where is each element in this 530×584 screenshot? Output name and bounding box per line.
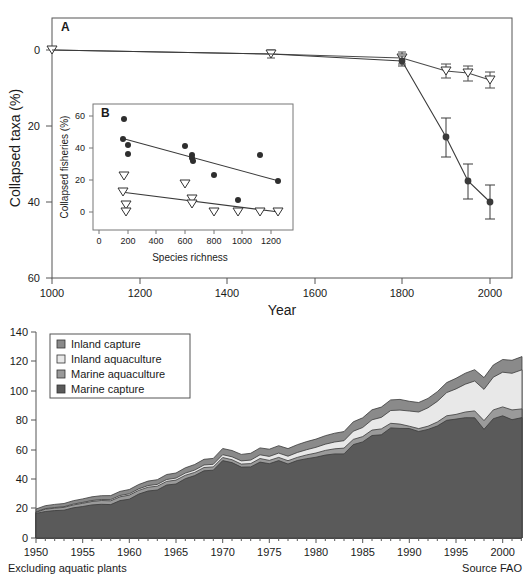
inset-y-label-40: 40: [75, 143, 85, 153]
panel-a-series-triangles: [47, 46, 495, 88]
c-y-label-80: 80: [16, 414, 28, 426]
panel-b: B 60 40 20 0 Collapsed fisheries (%) 0 2…: [59, 104, 293, 263]
panel-a-y-axis: 0 20 40 60: [28, 44, 52, 284]
panel-c-x-axis: 1950 1955 1960 1965 1970 1975 1980 1985 …: [24, 538, 522, 558]
legend-label-marine-aquaculture: Marine aquaculture: [71, 368, 165, 380]
c-x-label-1995: 1995: [444, 546, 468, 558]
c-major-ticks: [36, 538, 503, 543]
c-x-label-1950: 1950: [24, 546, 48, 558]
panel-a-label: A: [61, 20, 70, 34]
legend-swatch-marine-capture: [57, 385, 65, 393]
inset-x-label-800: 800: [206, 236, 221, 246]
x-tick-label-1200: 1200: [128, 287, 152, 299]
c-x-label-2000: 2000: [490, 546, 514, 558]
figure-container: A 0 20 40 60 Collapsed taxa (%) 1000 120…: [0, 0, 530, 584]
panel-b-label: B: [101, 106, 110, 120]
panel-a-x-axis-label: Year: [268, 302, 297, 318]
panel-c: 0 20 40 60 80 100 120 140: [8, 326, 522, 574]
panel-b-y-axis-label: Collapsed fisheries (%): [59, 116, 70, 219]
panel-a-y-axis-label: Collapsed taxa (%): [7, 89, 23, 207]
x-tick-label-1600: 1600: [303, 287, 327, 299]
y-tick-label-40: 40: [28, 196, 40, 208]
figure-svg: A 0 20 40 60 Collapsed taxa (%) 1000 120…: [0, 0, 530, 584]
panel-c-legend: Inland capture Inland aquaculture Marine…: [50, 334, 190, 398]
c-y-label-0: 0: [22, 532, 28, 544]
inset-y-label-20: 20: [75, 175, 85, 185]
y-tick-label-60: 60: [28, 272, 40, 284]
panel-b-x-axis-label: Species richness: [152, 252, 228, 263]
c-y-label-120: 120: [10, 355, 28, 367]
c-x-label-1990: 1990: [397, 546, 421, 558]
triangle-markers: [47, 46, 495, 84]
c-y-label-20: 20: [16, 502, 28, 514]
legend-item-inland-aquaculture[interactable]: Inland aquaculture: [57, 353, 162, 365]
x-tick-label-1400: 1400: [215, 287, 239, 299]
inset-y-label-0: 0: [80, 207, 85, 217]
c-x-label-1965: 1965: [164, 546, 188, 558]
inset-x-label-1200: 1200: [261, 236, 281, 246]
inset-x-label-600: 600: [177, 236, 192, 246]
legend-item-marine-aquaculture[interactable]: Marine aquaculture: [57, 368, 165, 380]
c-y-label-140: 140: [10, 326, 28, 338]
c-x-label-1985: 1985: [350, 546, 374, 558]
x-tick-label-2000: 2000: [478, 287, 502, 299]
c-x-label-1960: 1960: [117, 546, 141, 558]
inset-y-label-60: 60: [75, 111, 85, 121]
legend-label-inland-capture: Inland capture: [71, 338, 141, 350]
x-tick-label-1000: 1000: [40, 287, 64, 299]
c-x-label-1970: 1970: [210, 546, 234, 558]
footnote-left: Excluding aquatic plants: [8, 562, 127, 574]
legend-label-inland-aquaculture: Inland aquaculture: [71, 353, 162, 365]
area-marine-capture: [36, 416, 522, 538]
legend-swatch-inland-capture: [57, 340, 65, 348]
y-tick-label-20: 20: [28, 120, 40, 132]
inset-x-label-0: 0: [96, 236, 101, 246]
legend-item-marine-capture[interactable]: Marine capture: [57, 383, 144, 395]
c-x-label-1955: 1955: [70, 546, 94, 558]
c-y-label-40: 40: [16, 473, 28, 485]
panel-b-x-axis: 0 200 400 600 800 1000 1200: [96, 230, 281, 246]
c-x-label-1980: 1980: [304, 546, 328, 558]
c-y-label-100: 100: [10, 385, 28, 397]
c-x-label-1975: 1975: [257, 546, 281, 558]
legend-label-marine-capture: Marine capture: [71, 383, 144, 395]
panel-a-x-axis: 1000 1200 1400 1600 1800 2000: [40, 278, 502, 299]
legend-swatch-inland-aquaculture: [57, 355, 65, 363]
x-tick-label-1800: 1800: [390, 287, 414, 299]
inset-x-label-1000: 1000: [232, 236, 252, 246]
inset-x-label-400: 400: [148, 236, 163, 246]
inset-x-label-200: 200: [120, 236, 135, 246]
panel-c-y-axis: 0 20 40 60 80 100 120 140: [10, 326, 36, 544]
legend-swatch-marine-aquaculture: [57, 370, 65, 378]
panel-b-y-axis: 60 40 20 0: [75, 111, 93, 217]
c-y-label-60: 60: [16, 444, 28, 456]
footnote-right: Source FAO: [462, 562, 522, 574]
y-tick-label-0: 0: [34, 44, 40, 56]
